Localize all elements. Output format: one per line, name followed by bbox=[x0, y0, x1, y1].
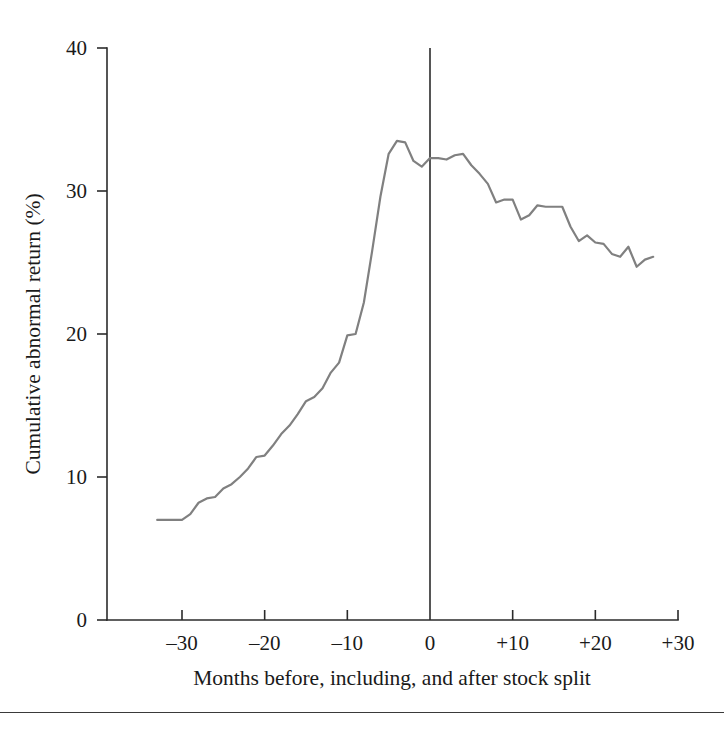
y-axis-title: Cumulative abnormal return (%) bbox=[21, 193, 45, 474]
x-tick-label: +30 bbox=[662, 631, 695, 655]
y-axis-ticks: 010203040 bbox=[66, 36, 107, 632]
x-tick-label: –30 bbox=[165, 631, 198, 655]
x-tick-label: –10 bbox=[331, 631, 364, 655]
y-tick-label: 40 bbox=[66, 36, 87, 60]
y-tick-label: 0 bbox=[77, 608, 88, 632]
y-tick-label: 20 bbox=[66, 322, 87, 346]
x-axis-title: Months before, including, and after stoc… bbox=[193, 666, 591, 690]
chart-figure: 010203040 –30–20–100+10+20+30 Months bef… bbox=[0, 0, 724, 730]
y-tick-label: 30 bbox=[66, 179, 87, 203]
figure-footer-rule bbox=[0, 712, 724, 713]
x-tick-label: 0 bbox=[425, 631, 436, 655]
cumulative-abnormal-return-line-chart: 010203040 –30–20–100+10+20+30 Months bef… bbox=[0, 0, 724, 730]
x-tick-label: –20 bbox=[248, 631, 281, 655]
x-tick-label: +10 bbox=[496, 631, 529, 655]
cumulative-abnormal-return-series-line bbox=[157, 141, 653, 520]
x-tick-label: +20 bbox=[579, 631, 612, 655]
y-tick-label: 10 bbox=[66, 465, 87, 489]
